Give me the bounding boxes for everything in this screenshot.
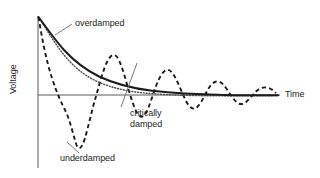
annotation-critically-damped: critically damped [130, 108, 162, 129]
annotation-critically-damped-line1: critically [130, 108, 162, 119]
curve-overdamped [39, 17, 279, 95]
leader-line-underdamped [67, 142, 79, 153]
annotation-critically-damped-line2: damped [130, 119, 162, 130]
y-axis-label: Voltage [8, 57, 19, 101]
curve-critically-damped [39, 17, 279, 96]
x-axis-label: Time [285, 89, 304, 100]
plot-canvas [0, 0, 320, 178]
damping-curves-figure: Time Voltage overdamped critically dampe… [0, 0, 320, 178]
annotation-underdamped: underdamped [60, 153, 115, 164]
annotation-overdamped: overdamped [75, 18, 125, 29]
leader-line-overdamped [55, 24, 72, 35]
